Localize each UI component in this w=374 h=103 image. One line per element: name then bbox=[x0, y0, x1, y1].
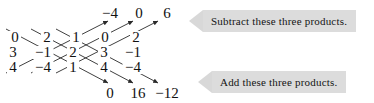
matrix-cell-r2c1: 3 bbox=[9, 45, 17, 60]
diagonal-expansion-diagram: −4 0 6 0 2 1 0 2 3 −1 2 3 −1 4 −4 1 4 −4… bbox=[0, 0, 182, 103]
matrix-cell-r3c2: −4 bbox=[35, 60, 51, 75]
determinant-diagram-figure: −4 0 6 0 2 1 0 2 3 −1 2 3 −1 4 −4 1 4 −4… bbox=[0, 0, 374, 103]
bottom-product-2: 16 bbox=[131, 86, 146, 101]
callout-add-label: Add these three products. bbox=[220, 76, 337, 88]
arrow-left-icon bbox=[198, 71, 212, 93]
top-product-2: 0 bbox=[135, 6, 143, 21]
bottom-product-3: −12 bbox=[155, 86, 178, 101]
matrix-cell-r3c4: 4 bbox=[100, 60, 108, 75]
matrix-cell-r3c3: 1 bbox=[69, 60, 77, 75]
matrix-cell-r2c4: 3 bbox=[100, 45, 108, 60]
callout-subtract: Subtract these three products. bbox=[189, 10, 356, 32]
matrix-cell-r1c4: 0 bbox=[101, 30, 109, 45]
matrix-cell-r1c5: 2 bbox=[132, 30, 140, 45]
callout-add-body: Add these three products. bbox=[212, 71, 346, 93]
matrix-cell-r1c3: 1 bbox=[72, 30, 80, 45]
top-product-3: 6 bbox=[163, 6, 171, 21]
matrix-cell-r3c5: −4 bbox=[125, 60, 141, 75]
callout-add: Add these three products. bbox=[198, 71, 346, 93]
top-product-1: −4 bbox=[102, 6, 118, 21]
bottom-product-1: 0 bbox=[106, 86, 114, 101]
callout-subtract-label: Subtract these three products. bbox=[211, 15, 347, 27]
arrow-left-icon bbox=[189, 10, 203, 32]
matrix-cell-r2c3: 2 bbox=[69, 45, 77, 60]
callout-subtract-body: Subtract these three products. bbox=[203, 10, 356, 32]
matrix-cell-r2c2: −1 bbox=[35, 45, 51, 60]
matrix-cell-r1c2: 2 bbox=[43, 30, 51, 45]
matrix-cell-r2c5: −1 bbox=[125, 45, 141, 60]
matrix-cell-r1c1: 0 bbox=[11, 30, 19, 45]
matrix-cell-r3c1: 4 bbox=[9, 60, 17, 75]
